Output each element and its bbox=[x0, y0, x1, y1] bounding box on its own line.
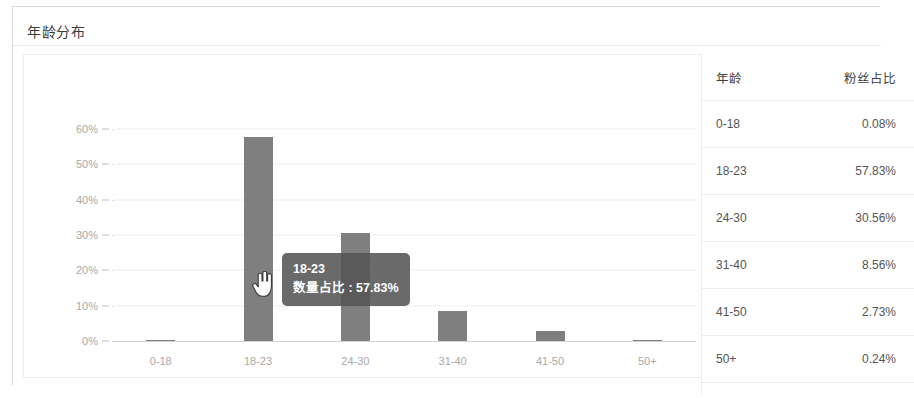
y-tick-mark bbox=[102, 199, 109, 200]
chart-pane: 0%10%20%30%40%50%60%0-1818-2324-3031-404… bbox=[23, 54, 701, 378]
y-axis-tick-label: 10% bbox=[24, 300, 98, 312]
table-cell-percent: 57.83% bbox=[804, 148, 914, 195]
y-tick-mark bbox=[102, 129, 109, 130]
table-cell-percent: 0.24% bbox=[804, 336, 914, 383]
chart-bar[interactable] bbox=[146, 340, 175, 341]
table-cell-empty bbox=[804, 383, 914, 398]
page-title: 年龄分布 bbox=[27, 21, 85, 41]
table-cell-percent: 2.73% bbox=[804, 289, 914, 336]
table-row-empty bbox=[702, 383, 914, 398]
table-row: 0-180.08% bbox=[702, 101, 914, 148]
table-cell-age: 0-18 bbox=[702, 101, 804, 148]
gridline bbox=[112, 199, 696, 200]
y-tick-mark bbox=[102, 341, 109, 342]
x-axis-tick-label: 31-40 bbox=[439, 355, 467, 367]
chart-bar[interactable] bbox=[244, 137, 273, 341]
fan-age-table: 年龄 粉丝占比 0-180.08%18-2357.83%24-3030.56%3… bbox=[702, 54, 914, 398]
y-tick-mark bbox=[102, 270, 109, 271]
table-header-row: 年龄 粉丝占比 bbox=[702, 54, 914, 101]
chart-bar[interactable] bbox=[438, 311, 467, 341]
card-body: 0%10%20%30%40%50%60%0-1818-2324-3031-404… bbox=[13, 46, 881, 386]
gridline bbox=[112, 235, 696, 236]
y-tick-mark bbox=[102, 164, 109, 165]
y-axis-tick-label: 20% bbox=[24, 264, 98, 276]
y-tick-mark bbox=[102, 235, 109, 236]
table-cell-age: 50+ bbox=[702, 336, 804, 383]
tooltip-title: 18-23 bbox=[293, 260, 399, 279]
table-row: 31-408.56% bbox=[702, 242, 914, 289]
x-axis-tick-label: 18-23 bbox=[244, 355, 272, 367]
table-row: 18-2357.83% bbox=[702, 148, 914, 195]
x-axis-tick-label: 50+ bbox=[638, 355, 657, 367]
table-cell-age: 31-40 bbox=[702, 242, 804, 289]
y-tick-mark bbox=[102, 305, 109, 306]
chart-bar[interactable] bbox=[633, 340, 662, 341]
y-axis-tick-label: 50% bbox=[24, 158, 98, 170]
age-distribution-card: 年龄分布 0%10%20%30%40%50%60%0-1818-2324-303… bbox=[12, 6, 880, 385]
table-row: 24-3030.56% bbox=[702, 195, 914, 242]
table-cell-percent: 8.56% bbox=[804, 242, 914, 289]
table-cell-age: 24-30 bbox=[702, 195, 804, 242]
bar-chart[interactable]: 0%10%20%30%40%50%60%0-1818-2324-3031-404… bbox=[24, 55, 702, 379]
y-axis-tick-label: 60% bbox=[24, 123, 98, 135]
table-cell-percent: 30.56% bbox=[804, 195, 914, 242]
axis-baseline bbox=[112, 341, 696, 342]
gridline bbox=[112, 129, 696, 130]
y-axis-tick-label: 30% bbox=[24, 229, 98, 241]
table-cell-percent: 0.08% bbox=[804, 101, 914, 148]
table-cell-empty bbox=[702, 383, 804, 398]
gridline bbox=[112, 164, 696, 165]
table-row: 50+0.24% bbox=[702, 336, 914, 383]
x-axis-tick-label: 0-18 bbox=[150, 355, 172, 367]
x-axis-tick-label: 24-30 bbox=[341, 355, 369, 367]
chart-tooltip: 18-23 数量占比 : 57.83% bbox=[282, 253, 410, 306]
fan-age-table-pane: 年龄 粉丝占比 0-180.08%18-2357.83%24-3030.56%3… bbox=[701, 54, 881, 394]
table-header-percent: 粉丝占比 bbox=[804, 54, 914, 101]
x-axis-tick-label: 41-50 bbox=[536, 355, 564, 367]
chart-bar[interactable] bbox=[536, 331, 565, 341]
table-row: 41-502.73% bbox=[702, 289, 914, 336]
table-cell-age: 41-50 bbox=[702, 289, 804, 336]
table-header-age: 年龄 bbox=[702, 54, 804, 101]
tooltip-value-row: 数量占比 : 57.83% bbox=[293, 279, 399, 298]
table-body: 0-180.08%18-2357.83%24-3030.56%31-408.56… bbox=[702, 101, 914, 398]
y-axis-tick-label: 0% bbox=[24, 335, 98, 347]
y-axis-tick-label: 40% bbox=[24, 194, 98, 206]
table-cell-age: 18-23 bbox=[702, 148, 804, 195]
